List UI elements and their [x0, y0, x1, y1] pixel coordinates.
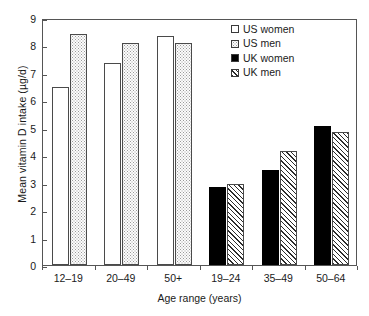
- y-tick-mark: [43, 20, 47, 21]
- legend-label: US women: [243, 24, 294, 35]
- x-tick-label: 50–64: [316, 272, 345, 285]
- bar: [314, 126, 331, 265]
- bar: [104, 63, 121, 265]
- y-tick-mark: [43, 75, 47, 76]
- legend-swatch-icon: [231, 25, 239, 33]
- bar: [262, 170, 279, 265]
- legend-item: US women: [231, 22, 331, 36]
- y-tick-label: 0: [20, 261, 36, 272]
- legend-item: UK women: [231, 51, 331, 65]
- y-axis-tick-labels: 0123456789: [20, 19, 36, 266]
- y-tick-label: 4: [20, 151, 36, 162]
- legend-swatch-icon: [231, 40, 239, 48]
- bar: [332, 132, 349, 265]
- y-tick-label: 5: [20, 124, 36, 135]
- x-tick-mark: [42, 266, 43, 270]
- bar: [70, 34, 87, 265]
- x-tick-label: 50+: [164, 272, 182, 285]
- x-tick-mark: [357, 266, 358, 270]
- bar: [227, 184, 244, 265]
- x-axis-tick-labels: 12–1920–4950+19–2435–4950–64: [42, 272, 357, 288]
- y-tick-label: 9: [20, 14, 36, 25]
- x-tick-label: 20–49: [106, 272, 135, 285]
- y-tick-mark: [43, 130, 47, 131]
- y-tick-mark: [43, 240, 47, 241]
- y-tick-mark: [43, 185, 47, 186]
- x-tick-mark: [95, 266, 96, 270]
- bar: [175, 43, 192, 265]
- legend-label: UK women: [243, 53, 294, 64]
- x-tick-mark: [147, 266, 148, 270]
- bar: [280, 151, 297, 265]
- x-tick-mark: [305, 266, 306, 270]
- y-tick-label: 7: [20, 69, 36, 80]
- x-tick-mark: [252, 266, 253, 270]
- legend-item: US men: [231, 37, 331, 51]
- vitamin-d-intake-bar-chart: Mean vitamin D intake (µg/d) 0123456789 …: [0, 0, 369, 316]
- x-tick-mark: [200, 266, 201, 270]
- y-tick-mark: [43, 157, 47, 158]
- y-tick-mark: [43, 47, 47, 48]
- bar: [157, 36, 174, 265]
- y-tick-label: 1: [20, 233, 36, 244]
- legend-item: UK men: [231, 66, 331, 80]
- legend-label: UK men: [243, 67, 281, 78]
- bar: [52, 87, 69, 265]
- chart-legend: US womenUS menUK womenUK men: [231, 22, 331, 80]
- y-tick-mark: [43, 212, 47, 213]
- x-tick-label: 12–19: [54, 272, 83, 285]
- bar: [209, 187, 226, 265]
- x-axis-tick-marks: [42, 266, 357, 271]
- y-tick-label: 2: [20, 206, 36, 217]
- bar: [122, 43, 139, 265]
- x-tick-label: 35–49: [264, 272, 293, 285]
- x-tick-label: 19–24: [211, 272, 240, 285]
- y-tick-mark: [43, 102, 47, 103]
- legend-swatch-icon: [231, 54, 239, 62]
- y-tick-label: 6: [20, 96, 36, 107]
- legend-label: US men: [243, 38, 281, 49]
- x-axis-title: Age range (years): [42, 292, 357, 304]
- y-tick-label: 3: [20, 178, 36, 189]
- y-tick-label: 8: [20, 41, 36, 52]
- legend-swatch-icon: [231, 69, 239, 77]
